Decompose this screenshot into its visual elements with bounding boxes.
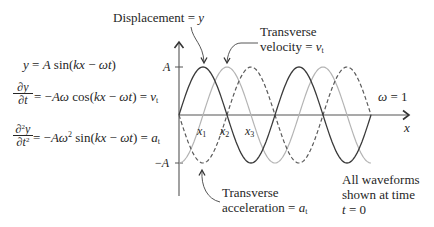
amplitude-label-negative: −A xyxy=(155,156,169,171)
x-marker-3: x3 xyxy=(245,124,254,139)
velocity-fraction-numerator: ∂y xyxy=(13,81,33,93)
acceleration-derivative-fraction: ∂2y ∂t2 xyxy=(13,123,33,148)
wave-diagram: y = A sin(kx − ωt) ∂y ∂t = −Aω cos(kx − … xyxy=(0,0,434,227)
velocity-arrow xyxy=(227,43,258,62)
acceleration-annotation-symbol: at xyxy=(299,200,308,215)
velocity-annotation-line1: Transverse xyxy=(260,24,317,39)
velocity-derivative-fraction: ∂y ∂t xyxy=(13,81,33,106)
velocity-annotation-line2: velocity = vt xyxy=(260,39,324,54)
acceleration-annotation-line2: acceleration = at xyxy=(222,200,307,215)
x-marker-2: x2 xyxy=(220,124,229,139)
acceleration-equation-rhs: = −Aω2 sin(kx − ωt) = at xyxy=(33,130,160,145)
displacement-annotation: Displacement = y xyxy=(113,10,204,25)
acceleration-annotation-label: acceleration = xyxy=(222,200,295,215)
displacement-arrow xyxy=(191,27,204,62)
acceleration-fraction-denominator: ∂t2 xyxy=(13,135,33,148)
x-axis-label: x xyxy=(404,120,410,135)
velocity-annotation-label: velocity = xyxy=(260,39,312,54)
note-line3: t = 0 xyxy=(342,202,366,217)
amplitude-label-positive: A xyxy=(163,60,170,75)
velocity-annotation-symbol: vt xyxy=(316,39,324,54)
velocity-fraction-denominator: ∂t xyxy=(13,93,33,106)
velocity-equation-rhs: = −Aω cos(kx − ωt) = vt xyxy=(34,89,158,104)
acceleration-fraction-numerator: ∂2y xyxy=(13,123,33,135)
note-line1: All waveforms xyxy=(342,172,420,187)
displacement-annotation-label: Displacement = xyxy=(113,10,195,25)
displacement-annotation-symbol: y xyxy=(198,10,204,25)
x-marker-1: x1 xyxy=(197,124,206,139)
note-line2: shown at time xyxy=(342,187,415,202)
omega-label: ω = 1 xyxy=(378,89,408,104)
acceleration-annotation-line1: Transverse xyxy=(222,185,279,200)
displacement-equation: y = A sin(kx − ωt) xyxy=(23,57,116,72)
